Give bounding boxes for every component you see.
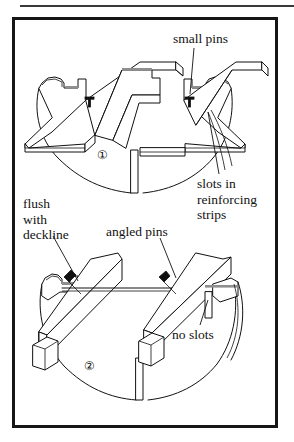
label-flush-with-deckline: flush with deckline (23, 196, 69, 243)
top-rule-divider (20, 5, 294, 7)
diagram-page: .s { fill:none; stroke:#111111; stroke-w… (0, 0, 294, 442)
label-no-slots: no slots (172, 327, 214, 343)
label-small-pins: small pins (173, 31, 228, 47)
label-angled-pins: angled pins (106, 224, 168, 240)
label-slots-in-reinforcing-strips: slots in reinforcing strips (197, 176, 257, 223)
figure-number-one: ① (97, 148, 108, 163)
figure-number-two: ② (84, 359, 95, 374)
